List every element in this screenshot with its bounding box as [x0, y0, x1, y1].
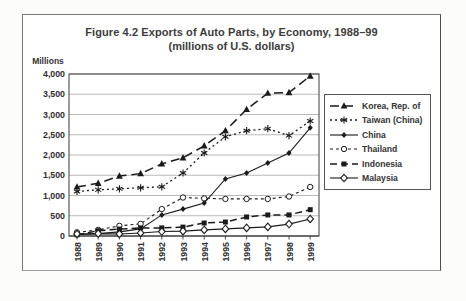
circle-open-marker — [341, 147, 346, 152]
diamond-open-marker — [222, 225, 229, 232]
diamond-open-marker — [341, 175, 348, 182]
legend-entry: Korea, Rep. of — [329, 100, 430, 112]
circle-open-marker — [223, 196, 228, 201]
asterisk-marker — [307, 117, 313, 124]
square-filled-marker — [308, 207, 313, 212]
legend-entry: Malaysia — [329, 172, 430, 184]
y-tick-label: 1,500 — [43, 170, 65, 180]
x-tick-label: 1991 — [136, 242, 146, 262]
asterisk-marker — [265, 125, 271, 132]
diamond-filled-marker — [159, 212, 164, 218]
legend-entry: China — [329, 129, 430, 141]
legend-marker-sample — [329, 114, 359, 126]
x-tick-label: 1988 — [73, 242, 83, 262]
triangle-filled-marker — [95, 180, 102, 186]
y-tick-label: 500 — [50, 211, 65, 221]
legend-marker-sample — [329, 129, 359, 141]
triangle-filled-marker — [222, 127, 229, 133]
legend-marker-sample — [329, 172, 359, 184]
asterisk-marker — [95, 186, 101, 193]
series-line — [77, 121, 310, 191]
page: Figure 4.2 Exports of Auto Parts, by Eco… — [0, 0, 466, 301]
square-filled-marker — [342, 161, 347, 166]
legend-label: Malaysia — [362, 173, 398, 183]
triangle-filled-marker — [243, 106, 250, 112]
legend-marker-sample — [329, 100, 359, 112]
asterisk-marker — [222, 133, 228, 140]
asterisk-marker — [159, 183, 165, 190]
series-line — [77, 76, 310, 187]
asterisk-marker — [286, 132, 292, 139]
legend-label: Korea, Rep. of — [362, 101, 420, 111]
legend-marker-sample — [329, 143, 359, 155]
x-tick-label: 1990 — [115, 242, 125, 262]
y-tick-label: 3,000 — [43, 110, 65, 120]
circle-open-marker — [159, 206, 164, 211]
diamond-filled-marker — [180, 206, 185, 212]
diamond-open-marker — [265, 223, 272, 230]
y-tick-label: 2,500 — [43, 130, 65, 140]
diamond-open-marker — [201, 226, 208, 233]
series-line — [77, 128, 310, 235]
y-tick-label: 0 — [60, 231, 65, 241]
x-tick-label: 1995 — [221, 242, 231, 262]
circle-open-marker — [286, 194, 291, 199]
legend-marker-sample — [329, 158, 359, 170]
circle-open-marker — [180, 195, 185, 200]
legend-label: Indonesia — [362, 159, 402, 169]
diamond-filled-marker — [265, 160, 270, 166]
diamond-filled-marker — [341, 132, 346, 138]
series-line — [77, 219, 310, 234]
square-filled-marker — [223, 220, 228, 225]
legend-entry: Indonesia — [329, 158, 430, 170]
square-filled-marker — [202, 221, 207, 226]
diamond-open-marker — [286, 220, 293, 227]
diamond-open-marker — [243, 224, 250, 231]
triangle-filled-marker — [137, 170, 144, 176]
x-tick-label: 1996 — [242, 242, 252, 262]
x-tick-label: 1992 — [157, 242, 167, 262]
x-tick-label: 1994 — [200, 242, 210, 262]
square-filled-marker — [287, 212, 292, 217]
legend-label: China — [362, 130, 386, 140]
x-tick-label: 1993 — [179, 242, 189, 262]
x-tick-label: 1998 — [285, 242, 295, 262]
triangle-filled-marker — [264, 89, 271, 95]
legend-entry: Taiwan (China) — [329, 114, 430, 126]
y-tick-label: 1,000 — [43, 191, 65, 201]
circle-open-marker — [308, 184, 313, 189]
y-tick-label: 3,500 — [43, 89, 65, 99]
legend-label: Taiwan (China) — [362, 115, 422, 125]
triangle-filled-marker — [307, 72, 314, 78]
square-filled-marker — [265, 212, 270, 217]
y-tick-label: 4,000 — [43, 69, 65, 79]
legend-label: Thailand — [362, 144, 397, 154]
y-tick-label: 2,000 — [43, 150, 65, 160]
diamond-open-marker — [307, 215, 314, 222]
figure-box: Figure 4.2 Exports of Auto Parts, by Eco… — [22, 14, 441, 271]
triangle-filled-marker — [201, 142, 208, 148]
legend-entry: Thailand — [329, 143, 430, 155]
circle-open-marker — [244, 196, 249, 201]
square-filled-marker — [244, 214, 249, 219]
chart-legend: Korea, Rep. ofTaiwan (China)ChinaThailan… — [324, 94, 431, 190]
x-tick-label: 1999 — [306, 242, 316, 262]
circle-open-marker — [265, 196, 270, 201]
circle-open-marker — [202, 196, 207, 201]
x-tick-label: 1997 — [263, 242, 273, 262]
x-tick-label: 1989 — [94, 242, 104, 262]
